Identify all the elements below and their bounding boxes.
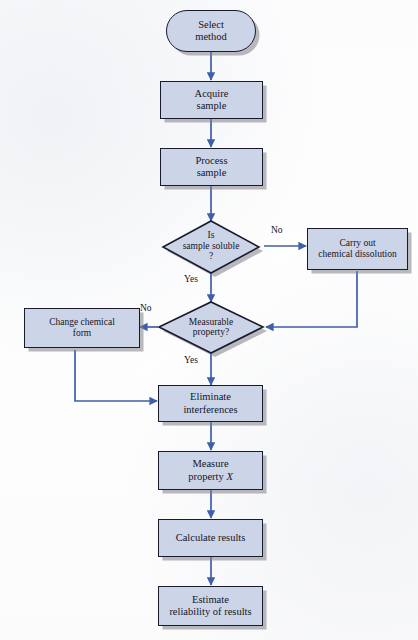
edge-label-measurable-no: No <box>140 303 152 313</box>
node-estimate-reliability-label: Estimate reliability of results <box>166 594 254 619</box>
node-acquire-sample[interactable]: Acquire sample <box>160 81 263 119</box>
node-carry-out-chemical-dissolution[interactable]: Carry out chemical dissolution <box>307 228 408 270</box>
diamond-shape-measurable <box>156 301 272 359</box>
node-calculate-results-label: Calculate results <box>173 532 249 544</box>
node-change-chemical-form[interactable]: Change chemical form <box>24 308 140 348</box>
connector-change-form-to-eliminate <box>75 350 157 401</box>
node-carry-out-chemical-dissolution-label: Carry out chemical dissolution <box>315 238 399 260</box>
node-measurable-property[interactable]: Measurable property? <box>156 301 266 353</box>
node-measure-property-x-label: Measure property X <box>185 458 236 483</box>
node-measure-property-x[interactable]: Measure property X <box>158 451 263 490</box>
node-select-method-label: Select method <box>192 19 230 44</box>
node-calculate-results[interactable]: Calculate results <box>158 519 263 557</box>
node-is-sample-soluble[interactable]: Is sample soluble ? <box>158 220 264 272</box>
node-acquire-sample-label: Acquire sample <box>192 88 232 113</box>
flowchart-canvas: Select method Acquire sample Process sam… <box>0 0 418 640</box>
node-process-sample-label: Process sample <box>192 155 230 180</box>
edge-label-soluble-yes: Yes <box>184 274 198 284</box>
node-change-chemical-form-label: Change chemical form <box>46 317 118 339</box>
measure-property-line2: property X <box>188 471 233 482</box>
connector-dissolution-to-measurable <box>266 271 357 327</box>
node-process-sample[interactable]: Process sample <box>160 148 263 186</box>
edge-label-soluble-no: No <box>271 225 283 235</box>
node-estimate-reliability[interactable]: Estimate reliability of results <box>158 586 263 626</box>
edge-label-measurable-yes: Yes <box>184 355 198 365</box>
node-select-method[interactable]: Select method <box>166 10 256 52</box>
node-eliminate-interferences-label: Eliminate interferences <box>180 391 240 416</box>
node-eliminate-interferences[interactable]: Eliminate interferences <box>158 385 263 422</box>
diamond-shape-soluble <box>158 220 270 278</box>
